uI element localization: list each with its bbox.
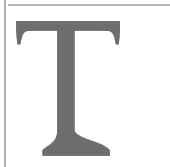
glyph-foot-serif: [42, 130, 110, 156]
glyph-crossbar: [16, 21, 120, 31]
glyph-stem: [57, 30, 74, 135]
dropcap-glyph-svg: [0, 0, 170, 167]
page-canvas: [0, 0, 170, 167]
dropcap-letter-t: [0, 0, 170, 167]
